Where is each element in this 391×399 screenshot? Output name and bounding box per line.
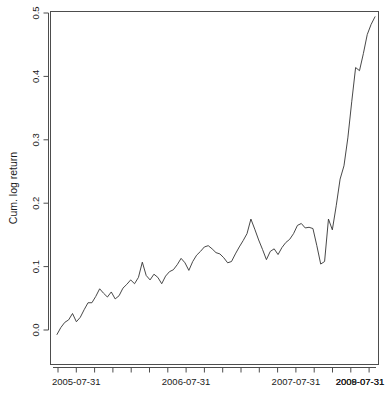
x-tick-label: 2009-07-31 — [336, 376, 385, 387]
y-axis-ticks: 0.00.10.20.30.40.5 — [30, 6, 49, 336]
x-tick-label: 2005-07-31 — [52, 376, 101, 387]
y-tick-label: 0.3 — [30, 133, 41, 146]
x-tick-label: 2007-07-31 — [272, 376, 321, 387]
y-axis-label: Cum. log return — [7, 152, 19, 225]
x-axis-tick-labels: 2005-07-312006-07-312007-07-312008-07-31… — [52, 376, 384, 387]
plot-panel-border — [51, 12, 379, 365]
y-tick-label: 0.2 — [30, 197, 41, 210]
line-chart-plot: 0.00.10.20.30.40.5 2005-07-312006-07-312… — [0, 0, 391, 399]
series-line-cum-log-return — [57, 17, 375, 335]
y-tick-label: 0.4 — [30, 70, 41, 83]
y-tick-label: 0.0 — [30, 323, 41, 336]
chart-figure: 0.00.10.20.30.40.5 2005-07-312006-07-312… — [0, 0, 391, 399]
x-axis-ticks — [58, 368, 369, 373]
y-tick-label: 0.1 — [30, 260, 41, 273]
y-tick-label: 0.5 — [30, 6, 41, 19]
x-tick-label: 2006-07-31 — [162, 376, 211, 387]
